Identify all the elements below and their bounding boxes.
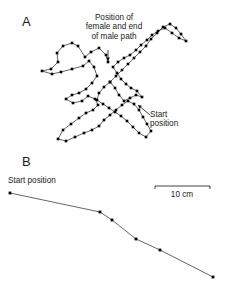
path-node [82,65,85,68]
path-node [162,26,165,29]
path-node [132,126,135,129]
path-node [129,54,132,57]
start-position-label-a: Start [150,110,168,119]
path-node [115,75,118,78]
path-node [120,115,123,118]
start-position-label-b: Start position [8,176,56,185]
path-node [85,88,88,91]
path-node [133,57,136,60]
path-node [109,81,112,84]
path-node [96,75,99,78]
path-node [57,61,60,64]
path-node [96,99,99,102]
path-node [112,66,115,69]
path-node [135,238,138,241]
path-node [111,219,114,222]
path-node [81,100,84,103]
path-node [91,82,94,85]
path-node [93,66,96,69]
path-node [65,140,68,143]
path-node [138,132,141,135]
path-node [71,94,74,97]
path-node [171,32,174,35]
path-node [145,45,148,48]
figure-background [0,0,234,288]
panel-letter-a: A [22,14,31,29]
path-node [116,72,119,75]
path-node [85,112,88,115]
path-node [114,111,117,114]
path-node [108,107,111,110]
path-node [169,23,172,26]
path-node [123,57,126,60]
path-node [107,61,110,64]
figure-container: A B Position offemale and endof male pat… [0,0,234,288]
path-node [51,73,54,76]
position-of-female-label: Position of [95,13,134,22]
path-node [120,78,123,81]
path-node [78,92,81,95]
path-node [212,276,215,279]
path-node [159,249,162,252]
path-node [121,69,124,72]
path-node [91,129,94,132]
path-node [121,104,124,107]
path-node [72,102,75,105]
path-node [145,136,148,139]
path-node [103,86,106,89]
path-node [78,117,81,120]
path-node [146,39,149,42]
path-node [118,94,121,97]
path-node [83,132,86,135]
path-node [88,60,91,63]
path-node [142,116,145,119]
path-node [129,97,132,100]
path-node [156,32,159,35]
path-node [127,63,130,66]
path-node [71,42,74,45]
path-node [62,129,65,132]
path-node [117,61,120,64]
path-node [150,130,153,133]
path-node [97,104,100,107]
path-node [125,83,128,86]
path-node [41,70,44,73]
start-position-label-a: position [150,119,179,128]
path-node [151,34,154,37]
path-node [109,114,112,117]
path-node [92,109,95,112]
path-node [139,51,142,54]
path-node [71,68,74,71]
path-node [136,90,139,93]
path-node [185,40,188,43]
panel-letter-b: B [22,154,31,169]
path-node [62,45,65,48]
path-node [56,52,59,55]
path-node [126,120,129,123]
path-node [102,103,105,106]
path-node [74,136,77,139]
path-node [105,54,108,57]
path-node [87,95,90,98]
path-node [70,123,73,126]
path-node [9,192,12,195]
scale-bar-label: 10 cm [171,190,193,199]
position-of-female-label: of male path [91,32,137,41]
path-node [98,92,101,95]
path-node [50,68,53,71]
path-node [175,27,178,30]
path-node [114,87,117,90]
path-node [150,38,153,41]
path-node [65,98,68,101]
path-node [140,44,143,47]
path-node [57,138,60,141]
path-node [135,94,138,97]
path-node [60,71,63,74]
path-node [180,33,183,36]
path-node [98,47,101,50]
path-node [138,109,141,112]
path-node [84,56,87,59]
path-node [90,51,93,54]
position-of-female-label: female and end [86,22,143,31]
path-node [99,211,102,214]
